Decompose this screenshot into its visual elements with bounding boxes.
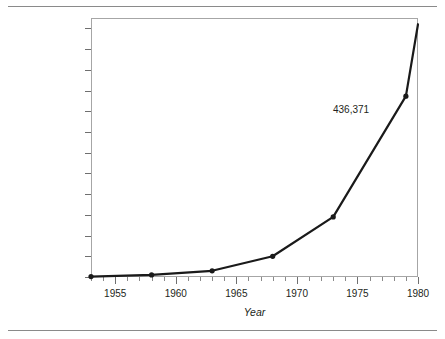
x-tick-minor <box>382 277 383 281</box>
x-tick-label: 1960 <box>146 288 206 299</box>
x-tick-minor <box>333 277 334 281</box>
x-tick-minor <box>406 277 407 281</box>
x-tick-major <box>236 277 237 284</box>
y-tick-mark <box>85 28 91 29</box>
y-tick-mark <box>85 153 91 154</box>
x-tick-minor <box>345 277 346 281</box>
x-tick-major <box>297 277 298 284</box>
x-tick-major <box>418 277 419 284</box>
x-tick-minor <box>164 277 165 281</box>
y-tick-mark <box>85 215 91 216</box>
x-tick-label: 1970 <box>267 288 327 299</box>
x-tick-minor <box>261 277 262 281</box>
x-tick-major <box>176 277 177 284</box>
plot-area <box>91 18 418 277</box>
y-tick-mark <box>85 173 91 174</box>
data-point-annotation: 436,371 <box>333 104 369 115</box>
bottom-rule <box>8 330 437 331</box>
x-tick-label: 1975 <box>327 288 387 299</box>
x-tick-minor <box>224 277 225 281</box>
x-tick-minor <box>285 277 286 281</box>
x-tick-major <box>357 277 358 284</box>
x-tick-minor <box>248 277 249 281</box>
y-tick-mark <box>85 194 91 195</box>
x-tick-minor <box>370 277 371 281</box>
x-tick-minor <box>212 277 213 281</box>
x-tick-minor <box>200 277 201 281</box>
x-tick-minor <box>91 277 92 281</box>
x-tick-minor <box>394 277 395 281</box>
x-tick-minor <box>103 277 104 281</box>
figure-container: Number of general purpose computers abov… <box>0 0 445 339</box>
y-tick-mark <box>85 256 91 257</box>
y-tick-mark <box>85 91 91 92</box>
y-tick-mark <box>85 111 91 112</box>
y-tick-mark <box>85 132 91 133</box>
x-tick-minor <box>321 277 322 281</box>
y-tick-mark <box>85 49 91 50</box>
x-tick-minor <box>152 277 153 281</box>
x-tick-minor <box>188 277 189 281</box>
y-tick-mark <box>85 236 91 237</box>
x-tick-minor <box>273 277 274 281</box>
x-tick-major <box>115 277 116 284</box>
x-tick-label: 1955 <box>85 288 145 299</box>
x-tick-minor <box>309 277 310 281</box>
top-rule <box>8 6 437 7</box>
x-tick-label: 1980 <box>388 288 445 299</box>
y-tick-mark <box>85 70 91 71</box>
x-tick-minor <box>127 277 128 281</box>
x-tick-minor <box>139 277 140 281</box>
x-tick-label: 1965 <box>206 288 266 299</box>
x-axis-title: Year <box>91 306 418 318</box>
